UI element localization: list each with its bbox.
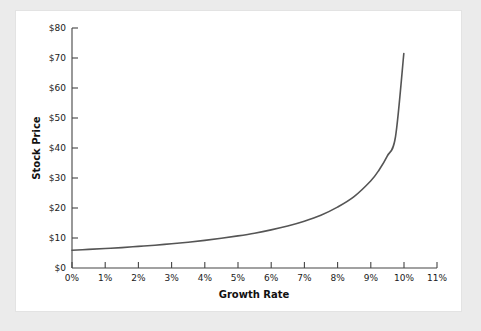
figure-root: $80 $70 $60 $50 $40 $30 $20 $10 $0 0% 1%…: [0, 0, 481, 331]
chart-panel: [15, 10, 462, 312]
